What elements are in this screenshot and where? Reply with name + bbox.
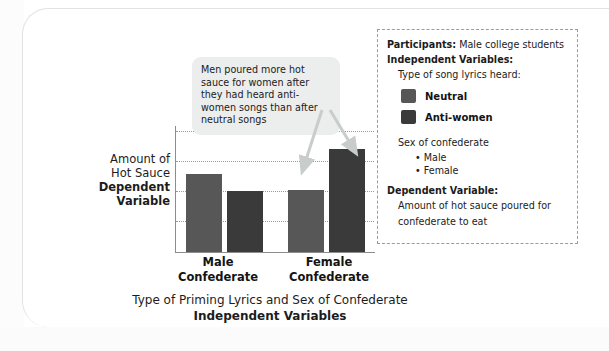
iv-bullet-male: • Male [415, 152, 569, 165]
legend-item-anti-women: Anti-women [401, 110, 569, 124]
caption-line1: Type of Priming Lyrics and Sex of Confed… [60, 292, 480, 308]
participants-line: Participants: Male college students [387, 38, 569, 51]
card-left-edge [0, 0, 24, 351]
caption-line2: Independent Variables [60, 308, 480, 324]
y-axis-label-line1: Amount of [86, 152, 170, 166]
iv-bullet-female: • Female [415, 165, 569, 178]
x-axis-group-male: Male Confederate [163, 255, 273, 284]
x-axis-group-male-line1: Male [163, 255, 273, 270]
x-axis-group-female-line2: Confederate [274, 270, 384, 285]
participants-label: Participants: [387, 39, 456, 50]
dependent-variable-heading: Dependent Variable: [387, 184, 569, 197]
iv-bullet-female-label: Female [424, 165, 459, 176]
x-axis-group-female: Female Confederate [274, 255, 384, 284]
iv-sub-sex-of-confederate: Sex of confederate [398, 136, 569, 150]
dv-text-line2: confederate to eat [398, 215, 569, 229]
page-root: Amount of Hot Sauce Dependent Variable M… [0, 0, 609, 351]
chart-caption: Type of Priming Lyrics and Sex of Confed… [60, 292, 480, 324]
legend-item-neutral: Neutral [401, 89, 569, 103]
bullet-dot: • [415, 165, 421, 176]
independent-variables-label: Independent Variables: [387, 54, 513, 65]
dependent-variable-label: Dependent Variable: [387, 185, 498, 196]
chart-plot-area [176, 127, 374, 252]
y-axis-label-line4: Variable [86, 194, 170, 208]
info-legend-box: Participants: Male college students Inde… [377, 29, 578, 244]
participants-value: Male college students [459, 39, 564, 50]
bar-female-neutral [288, 190, 324, 252]
legend-swatch-anti-women [401, 110, 416, 124]
iv-sub-lyrics: Type of song lyrics heard: [398, 68, 569, 82]
chart-x-axis-line [175, 252, 375, 253]
legend-label-neutral: Neutral [425, 91, 467, 102]
independent-variables-heading: Independent Variables: [387, 53, 569, 66]
y-axis-label: Amount of Hot Sauce Dependent Variable [86, 152, 170, 208]
iv-bullet-male-label: Male [424, 152, 447, 163]
bullet-dot: • [415, 152, 421, 163]
annotation-callout: Men poured more hot sauce for women afte… [192, 57, 340, 135]
x-axis-group-male-line2: Confederate [163, 270, 273, 285]
bar-male-neutral [186, 174, 222, 252]
x-axis-group-female-line1: Female [274, 255, 384, 270]
dv-text-line1: Amount of hot sauce poured for [398, 199, 569, 213]
legend-label-anti-women: Anti-women [425, 112, 493, 123]
bar-male-anti-women [227, 191, 263, 252]
y-axis-label-line2: Hot Sauce [86, 166, 170, 180]
bar-female-anti-women [329, 149, 365, 252]
legend-swatch-neutral [401, 89, 416, 103]
card-bottom-edge [0, 327, 609, 351]
y-axis-label-line3: Dependent [86, 180, 170, 194]
